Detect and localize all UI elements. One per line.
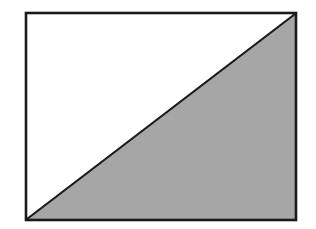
rectangle-diagonal-diagram [0, 0, 316, 229]
